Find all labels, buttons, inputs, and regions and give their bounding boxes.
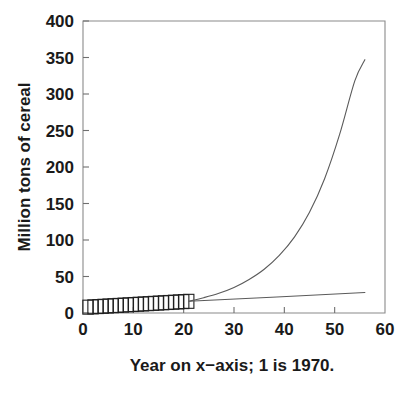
x-axis-caption: Year on x−axis; 1 is 1970.	[130, 356, 335, 375]
y-tick-label: 200	[46, 158, 74, 177]
y-axis-title: Million tons of cereal	[15, 82, 34, 251]
chart-figure: 050100150200250300350400 0102030405060 M…	[0, 0, 412, 393]
y-tick-label: 0	[65, 304, 74, 323]
y-tick-label: 350	[46, 49, 74, 68]
x-tick-label: 20	[174, 320, 193, 339]
x-tick-label: 10	[124, 320, 143, 339]
y-tick-label: 100	[46, 231, 74, 250]
x-tick-label: 30	[225, 320, 244, 339]
cereal-production-chart: 050100150200250300350400 0102030405060 M…	[0, 0, 412, 393]
x-tick-label: 60	[376, 320, 395, 339]
y-tick-label: 150	[46, 195, 74, 214]
x-tick-label: 50	[325, 320, 344, 339]
y-tick-label: 250	[46, 122, 74, 141]
y-tick-label: 300	[46, 85, 74, 104]
y-tick-label: 50	[55, 268, 74, 287]
y-tick-label: 400	[46, 12, 74, 31]
x-tick-label: 40	[275, 320, 294, 339]
x-tick-label: 0	[78, 320, 87, 339]
